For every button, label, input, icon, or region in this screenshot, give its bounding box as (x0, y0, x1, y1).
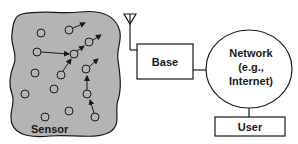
user-label: User (238, 121, 263, 133)
sensor-label: Sensor (31, 123, 69, 135)
network-label-line3: Internet) (229, 75, 273, 87)
antenna-icon (124, 14, 137, 50)
sensor-network-diagram: Sensor Base Network (e.g., Internet) Use… (0, 0, 298, 144)
network-label-line2: (e.g., (238, 61, 264, 73)
network-label-line1: Network (229, 47, 273, 59)
base-label: Base (152, 56, 178, 68)
